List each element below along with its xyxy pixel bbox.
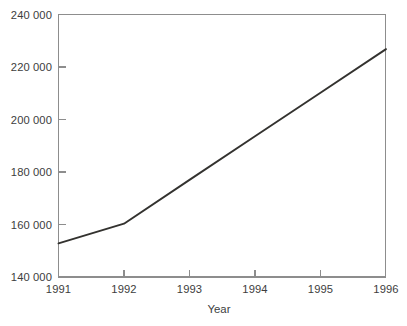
x-tick-label-1993: 1993 bbox=[177, 283, 202, 295]
x-tick-label-1996: 1996 bbox=[373, 283, 398, 295]
x-axis-tick-labels: 1991 1992 1993 1994 1995 1996 bbox=[46, 283, 399, 295]
x-tick-label-1995: 1995 bbox=[308, 283, 333, 295]
x-axis-title: Year bbox=[207, 303, 230, 315]
chart-canvas: 140 000 160 000 180 000 200 000 220 000 … bbox=[0, 0, 407, 326]
x-axis-ticks bbox=[124, 270, 321, 277]
data-series-line bbox=[59, 49, 387, 243]
y-tick-label-240000: 240 000 bbox=[11, 9, 52, 21]
line-chart: 140 000 160 000 180 000 200 000 220 000 … bbox=[0, 0, 407, 326]
y-axis-tick-labels: 140 000 160 000 180 000 200 000 220 000 … bbox=[11, 9, 52, 284]
x-tick-label-1994: 1994 bbox=[242, 283, 267, 295]
y-tick-label-180000: 180 000 bbox=[11, 166, 52, 178]
y-tick-label-220000: 220 000 bbox=[11, 61, 52, 73]
y-tick-label-140000: 140 000 bbox=[11, 271, 52, 283]
plot-frame bbox=[59, 15, 386, 278]
y-tick-label-200000: 200 000 bbox=[11, 114, 52, 126]
y-axis-ticks bbox=[59, 15, 66, 278]
y-tick-label-160000: 160 000 bbox=[11, 219, 52, 231]
x-tick-label-1992: 1992 bbox=[111, 283, 136, 295]
x-tick-label-1991: 1991 bbox=[46, 283, 71, 295]
